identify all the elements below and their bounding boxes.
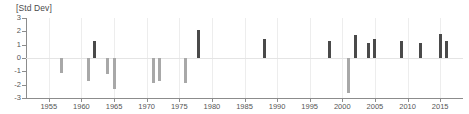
bar-2016[interactable] (445, 41, 448, 58)
y-tick-label: 0 (1, 54, 21, 62)
y-tick-label: 3 (1, 14, 21, 22)
x-tick-label: 2010 (393, 103, 423, 111)
bar-1964[interactable] (106, 58, 109, 74)
y-tick-label-wrap: 2 (0, 27, 21, 35)
y-tick-label-wrap: 1 (0, 41, 21, 49)
std-dev-bar-chart: [Std Dev] 3210-1-2-3 1955196019651970197… (0, 0, 469, 114)
y-tick-mark (22, 18, 26, 19)
bar-2012[interactable] (419, 43, 422, 58)
x-tick-label: 1970 (132, 103, 162, 111)
y-tick-mark (22, 85, 26, 86)
bar-2015[interactable] (439, 34, 442, 58)
x-tick-label: 2005 (360, 103, 390, 111)
y-tick-label: -3 (1, 94, 21, 102)
bar-1971[interactable] (152, 58, 155, 83)
x-tick-label: 1960 (66, 103, 96, 111)
bar-2001[interactable] (347, 58, 350, 93)
y-tick-label: -2 (1, 81, 21, 89)
y-tick-mark (22, 31, 26, 32)
y-tick-label-wrap: 3 (0, 14, 21, 22)
x-tick-label: 2015 (425, 103, 455, 111)
bar-2009[interactable] (400, 41, 403, 58)
y-tick-label: 1 (1, 41, 21, 49)
y-tick-label: 2 (1, 27, 21, 35)
y-tick-mark (22, 71, 26, 72)
bar-1978[interactable] (197, 30, 200, 58)
y-tick-mark (22, 58, 26, 59)
bar-1962[interactable] (93, 41, 96, 58)
y-tick-label: -1 (1, 67, 21, 75)
y-tick-mark (22, 98, 26, 99)
y-tick-label-wrap: -3 (0, 94, 21, 102)
bar-2002[interactable] (354, 35, 357, 58)
bar-1957[interactable] (60, 58, 63, 73)
bar-1976[interactable] (184, 58, 187, 83)
y-tick-label-wrap: -2 (0, 81, 21, 89)
bar-1998[interactable] (328, 41, 331, 58)
bar-1961[interactable] (87, 58, 90, 81)
x-tick-label: 1975 (164, 103, 194, 111)
x-tick-label: 1990 (262, 103, 292, 111)
bar-1988[interactable] (263, 39, 266, 58)
x-tick-label: 1985 (230, 103, 260, 111)
bar-2005[interactable] (373, 39, 376, 58)
x-tick-label: 1995 (295, 103, 325, 111)
bar-2004[interactable] (367, 43, 370, 58)
bar-1972[interactable] (158, 58, 161, 81)
plot-area (26, 18, 463, 98)
x-tick-label: 2000 (327, 103, 357, 111)
x-tick-label: 1965 (99, 103, 129, 111)
y-tick-label-wrap: 0 (0, 54, 21, 62)
zero-line (26, 58, 463, 59)
bar-1965[interactable] (113, 58, 116, 89)
x-tick-label: 1980 (197, 103, 227, 111)
y-tick-label-wrap: -1 (0, 67, 21, 75)
x-tick-label: 1955 (34, 103, 64, 111)
y-tick-mark (22, 45, 26, 46)
chart-title: [Std Dev] (16, 3, 52, 13)
